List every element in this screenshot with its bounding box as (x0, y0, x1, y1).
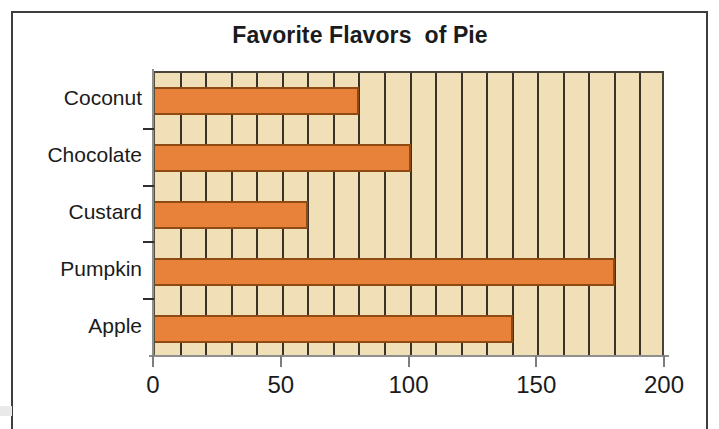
y-axis-label-coconut: Coconut (2, 86, 142, 110)
y-axis-tick (143, 128, 154, 130)
bar-apple[interactable] (155, 315, 513, 343)
bar-row (155, 87, 662, 115)
y-axis-label-chocolate: Chocolate (2, 143, 142, 167)
x-axis-label-0: 0 (146, 371, 159, 399)
x-axis-tick (408, 355, 410, 367)
bar-row (155, 315, 662, 343)
x-axis-tick (280, 355, 282, 367)
x-axis-tick (663, 355, 665, 367)
y-axis-label-apple: Apple (2, 314, 142, 338)
y-axis-label-custard: Custard (2, 200, 142, 224)
bar-row (155, 258, 662, 286)
y-axis-label-pumpkin: Pumpkin (2, 257, 142, 281)
bar-custard[interactable] (155, 201, 308, 229)
x-axis-label-100: 100 (388, 371, 428, 399)
x-axis-label-50: 50 (267, 371, 294, 399)
x-axis-label-200: 200 (644, 371, 684, 399)
plot-area (153, 71, 664, 355)
bar-chocolate[interactable] (155, 144, 411, 172)
y-axis-tick (143, 241, 154, 243)
y-axis-tick (143, 185, 154, 187)
y-axis-line (152, 69, 154, 361)
bar-pumpkin[interactable] (155, 258, 615, 286)
x-axis-tick (535, 355, 537, 367)
bar-row (155, 201, 662, 229)
y-axis-tick (143, 298, 154, 300)
bars-layer (155, 73, 662, 355)
bar-row (155, 144, 662, 172)
y-axis-labels: CoconutChocolateCustardPumpkinApple (0, 0, 142, 422)
bar-coconut[interactable] (155, 87, 359, 115)
x-axis-label-150: 150 (516, 371, 556, 399)
x-axis-tick (152, 355, 154, 367)
scan-artifact (0, 406, 12, 416)
